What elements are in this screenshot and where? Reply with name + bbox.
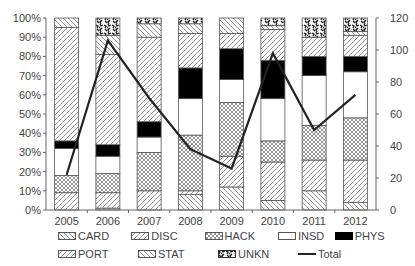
segment-insd	[178, 99, 202, 135]
segment-stat	[343, 202, 367, 210]
segment-insd	[220, 79, 244, 102]
legend-item-port: PORT	[58, 248, 138, 260]
left-tick-label: 50%	[19, 108, 41, 120]
segment-phys	[137, 122, 161, 137]
left-tick-label: 70%	[19, 70, 41, 82]
segment-phys	[343, 56, 367, 71]
right-tick-label: 100	[390, 44, 408, 56]
hack-swatch-icon	[205, 232, 223, 240]
segment-disc	[302, 37, 326, 56]
segment-insd	[302, 76, 326, 126]
legend-label: DISC	[151, 230, 177, 242]
x-tick-label: 2007	[137, 215, 161, 226]
insd-swatch-icon	[278, 232, 296, 240]
segment-phys	[302, 56, 326, 75]
segment-insd	[137, 137, 161, 152]
legend-row-2: PORT STAT UNKN Total	[58, 245, 408, 263]
segment-hack	[96, 174, 120, 193]
x-tick-label: 2011	[302, 215, 326, 226]
legend-label: INSD	[298, 230, 324, 242]
legend-label: HACK	[225, 230, 256, 242]
segment-port	[220, 156, 244, 187]
segment-port	[261, 162, 285, 200]
disc-swatch-icon	[131, 232, 149, 240]
segment-phys	[178, 68, 202, 99]
segment-card	[220, 18, 244, 33]
segment-disc	[220, 33, 244, 48]
segment-port	[96, 193, 120, 208]
stat-swatch-icon	[138, 250, 156, 258]
segment-hack	[178, 135, 202, 191]
segment-port	[137, 191, 161, 210]
legend-item-unkn: UNKN	[218, 248, 298, 260]
right-tick-label: 120	[390, 12, 408, 24]
left-tick-label: 90%	[19, 31, 41, 43]
x-tick-label: 2005	[54, 215, 78, 226]
segment-port	[55, 193, 79, 210]
segment-unkn	[178, 18, 202, 24]
legend-item-stat: STAT	[138, 248, 218, 260]
x-tick-label: 2008	[178, 215, 202, 226]
segment-disc	[55, 28, 79, 141]
x-tick-label: 2012	[343, 215, 367, 226]
segment-hack	[137, 152, 161, 190]
segment-stat	[178, 195, 202, 210]
bar-2009	[220, 18, 244, 210]
left-tick-label: 20%	[19, 166, 41, 178]
segment-card	[261, 26, 285, 30]
legend-label: UNKN	[238, 248, 269, 260]
left-tick-label: 40%	[19, 127, 41, 139]
legend-label: PHYS	[355, 230, 385, 242]
segment-card	[178, 24, 202, 34]
x-tick-label: 2010	[261, 215, 285, 226]
segment-insd	[261, 99, 285, 141]
segment-stat	[302, 191, 326, 210]
right-tick-label: 20	[390, 172, 402, 184]
segment-unkn	[137, 18, 161, 24]
left-tick-label: 100%	[13, 12, 41, 24]
legend-row-1: CARD DISC HACK INSD PHYS	[58, 227, 408, 245]
legend-item-total: Total	[298, 248, 360, 260]
left-tick-label: 10%	[19, 185, 41, 197]
x-tick-label: 2009	[219, 215, 243, 226]
legend-label: CARD	[78, 230, 109, 242]
bar-2005	[55, 18, 79, 210]
right-tick-label: 60	[390, 108, 402, 120]
card-swatch-icon	[58, 232, 76, 240]
bar-2008	[178, 18, 202, 210]
bars-group	[55, 18, 368, 210]
segment-unkn	[261, 18, 285, 26]
left-tick-label: 0%	[25, 204, 41, 216]
unkn-swatch-icon	[218, 250, 236, 258]
segment-unkn	[302, 18, 326, 37]
segment-port	[343, 160, 367, 202]
legend-label: PORT	[78, 248, 108, 260]
legend-item-phys: PHYS	[335, 230, 408, 242]
legend-item-insd: INSD	[278, 230, 335, 242]
segment-card	[343, 31, 367, 35]
segment-disc	[178, 33, 202, 68]
right-tick-label: 80	[390, 76, 402, 88]
segment-phys	[220, 49, 244, 80]
segment-insd	[96, 156, 120, 173]
left-tick-label: 80%	[19, 50, 41, 62]
segment-hack	[55, 175, 79, 192]
segment-card	[55, 18, 79, 28]
total-line-swatch-icon	[298, 250, 316, 258]
segment-unkn	[96, 18, 120, 35]
legend-item-disc: DISC	[131, 230, 204, 242]
segment-disc	[343, 35, 367, 56]
legend-label: Total	[318, 248, 341, 260]
segment-card	[137, 24, 161, 37]
segment-stat	[220, 187, 244, 210]
segment-unkn	[343, 18, 367, 31]
bar-2012	[343, 18, 367, 210]
segment-phys	[96, 145, 120, 157]
segment-stat	[261, 200, 285, 210]
x-tick-label: 2006	[96, 215, 120, 226]
bar-2007	[137, 18, 161, 210]
right-tick-label: 40	[390, 140, 402, 152]
segment-hack	[343, 118, 367, 160]
segment-port	[178, 191, 202, 195]
segment-port	[302, 160, 326, 191]
